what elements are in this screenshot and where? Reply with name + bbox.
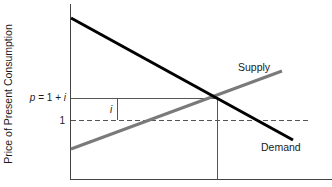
interest-label: i [110,104,113,115]
supply-demand-diagram: Price of Present Consumption p = 1 + i 1… [0,0,332,187]
supply-curve [71,71,282,149]
supply-label: Supply [238,61,271,73]
y-axis-label: Price of Present Consumption [2,24,14,164]
demand-label: Demand [261,141,301,153]
equilibrium-price-label: p = 1 + i [29,92,67,103]
price-one-label: 1 [59,115,65,126]
